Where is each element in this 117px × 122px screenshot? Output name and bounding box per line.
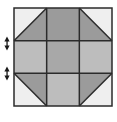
quilt-block-diagram xyxy=(0,0,117,122)
cell-middle-left-fill xyxy=(14,41,47,74)
cell-top-center xyxy=(47,8,80,41)
cell-top-right xyxy=(79,8,112,41)
cell-top-center-fill xyxy=(47,8,80,41)
cell-center-fill xyxy=(47,41,80,74)
cell-bottom-right xyxy=(79,73,112,106)
cell-bottom-left xyxy=(14,73,47,106)
cell-middle-left xyxy=(14,41,47,74)
cell-bottom-center-fill xyxy=(47,73,80,106)
cell-center xyxy=(47,41,80,74)
cell-middle-right-fill xyxy=(79,41,112,74)
cell-middle-right xyxy=(79,41,112,74)
cell-bottom-center xyxy=(47,73,80,106)
cell-top-left xyxy=(14,8,47,41)
quilt-block-canvas xyxy=(0,0,117,122)
